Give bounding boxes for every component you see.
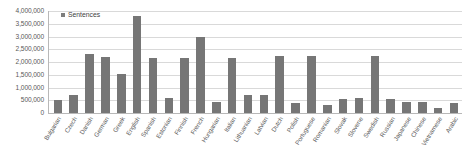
- y-tick-label: 3,000,000: [16, 33, 44, 40]
- x-tick-label: Czech: [63, 116, 78, 134]
- bar[interactable]: [54, 100, 63, 113]
- bar-slot: [177, 11, 193, 113]
- y-tick-label: 1,000,000: [16, 84, 44, 91]
- bar[interactable]: [69, 95, 78, 113]
- x-slot: Bulgarian: [49, 114, 65, 159]
- plot-area: Sentences: [48, 11, 462, 114]
- x-slot: Finnish: [176, 114, 192, 159]
- bar-slot: [367, 11, 383, 113]
- bar[interactable]: [371, 56, 380, 113]
- x-tick-label: Polish: [286, 116, 300, 134]
- bar-slot: [414, 11, 430, 113]
- bar-slot: [383, 11, 399, 113]
- bar-slot: [208, 11, 224, 113]
- x-slot: Latvian: [256, 114, 272, 159]
- x-tick-label: Latvian: [253, 116, 269, 136]
- y-tick-label: 3,500,000: [16, 20, 44, 27]
- bar-slot: [430, 11, 446, 113]
- x-slot: Hungarian: [208, 114, 224, 159]
- bar[interactable]: [386, 99, 395, 113]
- x-tick-label: Finnish: [173, 116, 189, 136]
- x-slot: Greek: [113, 114, 129, 159]
- y-axis: 4,000,0003,500,0003,000,0002,500,0002,00…: [0, 0, 48, 120]
- bar[interactable]: [275, 56, 284, 113]
- bar-slot: [288, 11, 304, 113]
- bar[interactable]: [180, 58, 189, 113]
- x-slot: Vietnamese: [430, 114, 446, 159]
- bar-slot: [224, 11, 240, 113]
- x-tick-label: Italian: [223, 116, 237, 133]
- bar-slot: [240, 11, 256, 113]
- bar[interactable]: [149, 58, 158, 113]
- x-slot: Lithuanian: [240, 114, 256, 159]
- bar-chart: 4,000,0003,500,0003,000,0002,500,0002,00…: [0, 0, 466, 159]
- x-slot: Dutch: [271, 114, 287, 159]
- bar-slot: [304, 11, 320, 113]
- bar[interactable]: [212, 102, 221, 113]
- y-tick-label: 4,000,000: [16, 8, 44, 15]
- bar-slot: [446, 11, 462, 113]
- bar-slot: [193, 11, 209, 113]
- x-slot: German: [97, 114, 113, 159]
- bar[interactable]: [85, 54, 94, 113]
- bar[interactable]: [196, 37, 205, 113]
- x-slot: Romanian: [319, 114, 335, 159]
- x-slot: Estonian: [160, 114, 176, 159]
- bar[interactable]: [434, 108, 443, 113]
- bar-slot: [66, 11, 82, 113]
- bar-slot: [50, 11, 66, 113]
- bar[interactable]: [117, 74, 126, 113]
- bar-slot: [256, 11, 272, 113]
- bar[interactable]: [450, 103, 459, 113]
- bar[interactable]: [323, 105, 332, 113]
- bar-slot: [319, 11, 335, 113]
- x-tick-label: Arabic: [445, 116, 460, 134]
- bar[interactable]: [307, 56, 316, 113]
- y-tick-label: 2,500,000: [16, 46, 44, 53]
- y-tick-label: 0: [40, 110, 44, 117]
- bar[interactable]: [244, 95, 253, 113]
- x-slot: Czech: [65, 114, 81, 159]
- x-slot: Swedish: [367, 114, 383, 159]
- x-tick-label: Danish: [78, 116, 94, 136]
- bar[interactable]: [101, 57, 110, 113]
- bar-slot: [98, 11, 114, 113]
- bar[interactable]: [291, 103, 300, 113]
- bar-slot: [399, 11, 415, 113]
- bar[interactable]: [355, 98, 364, 113]
- y-tick-label: 2,000,000: [16, 59, 44, 66]
- bar[interactable]: [260, 95, 269, 113]
- bar-slot: [113, 11, 129, 113]
- bar[interactable]: [339, 99, 348, 113]
- bar-slot: [161, 11, 177, 113]
- bar[interactable]: [418, 102, 427, 113]
- x-slot: Danish: [81, 114, 97, 159]
- bar[interactable]: [402, 102, 411, 113]
- x-slot: Arabic: [446, 114, 462, 159]
- bar[interactable]: [228, 58, 237, 113]
- bar-group: [50, 11, 462, 113]
- bar-slot: [335, 11, 351, 113]
- x-tick-label: Dutch: [271, 116, 285, 133]
- bar[interactable]: [165, 98, 174, 113]
- bar[interactable]: [133, 16, 142, 113]
- bar-slot: [82, 11, 98, 113]
- x-tick-label: Greek: [112, 116, 126, 134]
- y-tick-label: 1,500,000: [16, 71, 44, 78]
- bar-slot: [272, 11, 288, 113]
- bar-slot: [351, 11, 367, 113]
- y-tick-label: 500,000: [21, 97, 44, 104]
- bar-slot: [145, 11, 161, 113]
- bar-slot: [129, 11, 145, 113]
- x-tick-label: Slovak: [333, 116, 348, 135]
- x-axis: BulgarianCzechDanishGermanGreekEnglishSp…: [49, 114, 462, 159]
